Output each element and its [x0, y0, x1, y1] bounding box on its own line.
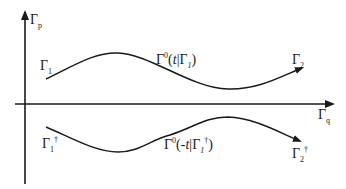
lower-end-label: Γ2† — [292, 147, 308, 161]
upper-end-label: Γ2 — [292, 53, 304, 67]
upper-start-label: Γ1 — [40, 59, 52, 73]
lower-start-label: Γ1† — [42, 137, 58, 151]
upper-curve-label: Γ0(t|Γ1) — [156, 53, 196, 67]
horizontal-axis-label: Γq — [318, 108, 330, 122]
lower-curve-label: Γ0(-t|Γ1†) — [164, 138, 213, 152]
vertical-axis-label: Γp — [30, 13, 42, 27]
